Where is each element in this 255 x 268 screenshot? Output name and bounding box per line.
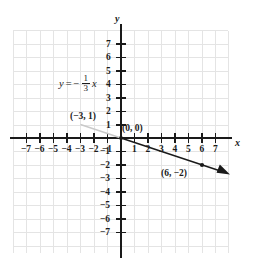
y-tick-label-6: 6: [106, 53, 111, 63]
y-tick-label-4: 4: [106, 80, 111, 90]
y-tick-label-neg1: −1: [100, 147, 110, 157]
x-tick-label-neg5: −5: [48, 145, 58, 155]
y-tick-label-neg4: −4: [100, 188, 110, 198]
equation-minus-sign: −: [74, 79, 80, 90]
x-tick-label-3: 3: [159, 145, 164, 155]
x-tick-label-1: 1: [132, 145, 137, 155]
y-tick-label-neg6: −6: [100, 215, 110, 225]
coordinate-graph-figure: −7 −6 −5 −4 −3 −2 −1 1 2 3 4 5 6 7 7 6 5…: [0, 0, 255, 268]
point-marker-6-neg2: [200, 163, 204, 167]
x-tick-label-6: 6: [200, 145, 205, 155]
equation-numerator: 1: [82, 74, 91, 83]
equation-denominator: 3: [82, 84, 91, 93]
function-line-faint-segment: [81, 125, 122, 139]
equation-fraction: 1 3: [82, 74, 91, 94]
point-marker-origin: [119, 136, 123, 140]
equation-equals: =: [65, 79, 73, 90]
x-tick-label-neg7: −7: [21, 145, 31, 155]
y-tick-label-neg3: −3: [100, 174, 110, 184]
point-label-6-neg2: (6, −2): [161, 169, 187, 179]
equation-lhs: y: [59, 79, 64, 90]
equation-variable: x: [92, 79, 97, 90]
y-axis-label: y: [115, 14, 119, 24]
y-tick-label-2: 2: [106, 107, 111, 117]
point-label-origin: (0, 0): [122, 124, 143, 134]
x-tick-label-neg3: −3: [75, 145, 85, 155]
axes: [10, 24, 232, 258]
x-tick-label-neg2: −2: [89, 145, 99, 155]
y-tick-label-neg7: −7: [100, 228, 110, 238]
y-tick-label-7: 7: [106, 40, 111, 50]
x-tick-label-7: 7: [213, 145, 218, 155]
y-tick-label-1: 1: [106, 121, 111, 131]
y-tick-label-5: 5: [106, 67, 111, 77]
y-tick-label-neg2: −2: [100, 161, 110, 171]
x-tick-label-4: 4: [173, 145, 178, 155]
y-tick-label-neg5: −5: [100, 201, 110, 211]
point-label-neg3-1: (−3, 1): [70, 112, 96, 122]
x-tick-label-2: 2: [146, 145, 151, 155]
x-tick-label-neg6: −6: [35, 145, 45, 155]
y-tick-label-3: 3: [106, 94, 111, 104]
x-tick-label-5: 5: [186, 145, 191, 155]
graph-canvas: [0, 0, 255, 268]
x-tick-label-neg4: −4: [62, 145, 72, 155]
equation-annotation: y = − 1 3 x: [59, 74, 97, 94]
x-axis-label: x: [235, 138, 240, 148]
